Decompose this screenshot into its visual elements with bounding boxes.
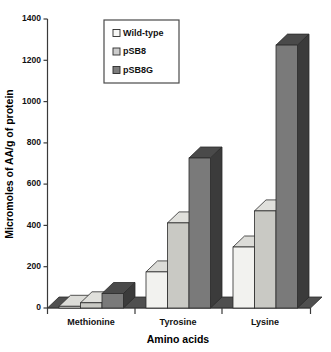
y-axis-tick-labels: 1400 1200 1000 800 600 400 200 0 [22,13,41,312]
bar-lysine-psb8g [276,34,309,308]
legend-label-psb8g: pSB8G [123,65,153,75]
y-tick-label-0: 0 [36,302,41,312]
legend-swatch-psb8 [113,48,120,55]
legend-swatch-psb8g [113,67,120,74]
x-tick-label-methionine: Methionine [67,317,115,327]
bar-group-tyrosine [146,147,222,308]
x-axis-title: Amino acids [147,333,210,345]
y-tick-label-800: 800 [27,137,41,147]
y-tick-label-1000: 1000 [22,96,41,106]
legend-label-psb8: pSB8 [123,46,146,56]
y-tick-label-400: 400 [27,220,41,230]
y-tick-label-1400: 1400 [22,13,41,23]
y-tick-label-200: 200 [27,261,41,271]
y-axis: 1400 1200 1000 800 600 400 200 0 Micromo… [3,13,48,312]
legend-item-psb8: pSB8 [113,46,146,56]
bar-group-lysine [233,34,309,308]
x-tick-label-lysine: Lysine [251,317,279,327]
bar-tyrosine-psb8g [189,147,222,308]
y-tick-label-1200: 1200 [22,55,41,65]
y-axis-title: Micromoles of AA/g of protein [3,89,15,239]
x-tick-label-tyrosine: Tyrosine [160,317,197,327]
bar-chart: 1400 1200 1000 800 600 400 200 0 Micromo… [0,0,331,352]
legend-swatch-wild-type [113,30,120,37]
y-tick-label-600: 600 [27,178,41,188]
chart-svg: 1400 1200 1000 800 600 400 200 0 Micromo… [0,0,331,352]
x-axis: Methionine Tyrosine Lysine Amino acids [48,308,311,345]
legend: Wild-type pSB8 pSB8G [104,20,179,83]
legend-label-wild-type: Wild-type [123,28,163,38]
legend-item-psb8g: pSB8G [113,65,153,75]
bar-group-methionine [59,283,135,309]
